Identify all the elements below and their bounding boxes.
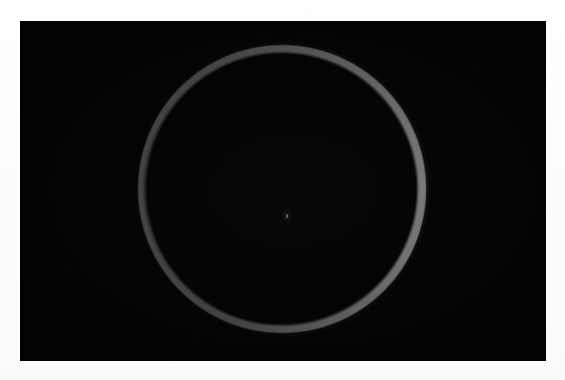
page-root xyxy=(0,0,565,380)
photo-background-gradient xyxy=(20,21,546,361)
black-photographic-field xyxy=(20,21,546,361)
